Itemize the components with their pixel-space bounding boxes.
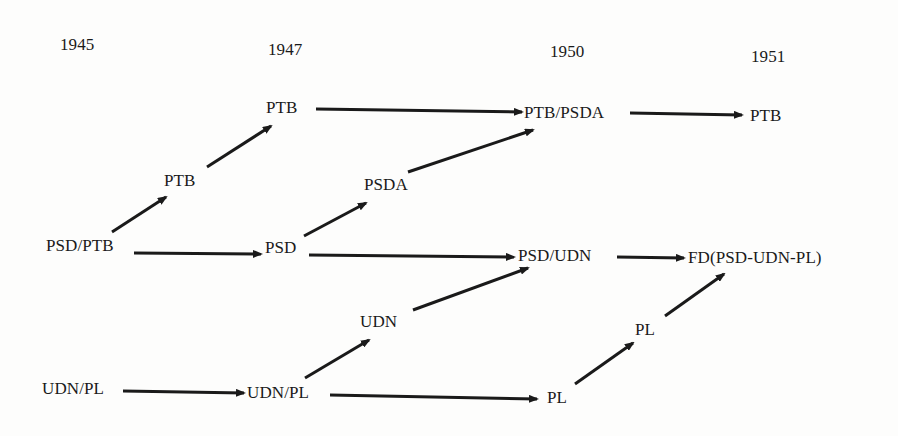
year-label-1950: 1950 xyxy=(550,42,584,62)
party-node-udn-pl-1945: UDN/PL xyxy=(42,379,104,399)
arrow-ptb-1947-to-ptb-psda-1950 xyxy=(316,109,522,112)
party-node-psd-ptb-1945: PSD/PTB xyxy=(46,236,114,256)
party-node-psda-mid: PSDA xyxy=(364,175,408,195)
arrow-psda-mid-to-ptb-psda-1950 xyxy=(408,130,533,172)
arrow-pl-1950-to-pl-mid xyxy=(575,343,633,384)
arrow-udn-pl-1947-to-udn-mid xyxy=(305,340,369,378)
arrow-psd-1947-to-psda-mid xyxy=(304,203,366,236)
party-node-ptb-1947: PTB xyxy=(266,98,297,118)
party-node-ptb-mid-a: PTB xyxy=(164,171,195,191)
party-node-psd-1947: PSD xyxy=(265,238,297,258)
arrow-udn-pl-1947-to-pl-1950 xyxy=(330,395,537,399)
party-node-pl-mid: PL xyxy=(635,320,655,340)
party-evolution-diagram: 1945194719501951 PSD/PTBUDN/PLPTBPTBPSDU… xyxy=(0,0,898,436)
year-label-1947: 1947 xyxy=(268,40,302,60)
party-node-psd-udn-1950: PSD/UDN xyxy=(518,246,591,266)
arrow-udn-mid-to-psd-udn-1950 xyxy=(413,268,528,310)
arrow-pl-mid-to-fd-1951 xyxy=(665,274,724,316)
arrow-udn-pl-1945-to-udn-pl-1947 xyxy=(123,391,244,393)
arrow-psd-udn-1950-to-fd-1951 xyxy=(617,257,684,258)
year-label-1945: 1945 xyxy=(60,35,94,55)
arrow-psd-ptb-1945-to-ptb-mid-a xyxy=(112,197,166,232)
arrow-psd-ptb-1945-to-psd-1947 xyxy=(134,253,261,254)
party-node-ptb-psda-1950: PTB/PSDA xyxy=(524,103,604,123)
year-label-1951: 1951 xyxy=(751,47,785,67)
arrow-ptb-psda-1950-to-ptb-1951 xyxy=(630,113,742,115)
arrow-psd-1947-to-psd-udn-1950 xyxy=(309,255,514,257)
party-node-udn-mid: UDN xyxy=(360,312,397,332)
party-node-pl-1950: PL xyxy=(547,388,567,408)
arrow-group xyxy=(112,109,742,399)
party-node-udn-pl-1947: UDN/PL xyxy=(247,383,309,403)
party-node-ptb-1951: PTB xyxy=(750,106,781,126)
party-node-fd-1951: FD(PSD-UDN-PL) xyxy=(688,248,822,268)
arrow-ptb-mid-a-to-ptb-1947 xyxy=(207,126,271,167)
